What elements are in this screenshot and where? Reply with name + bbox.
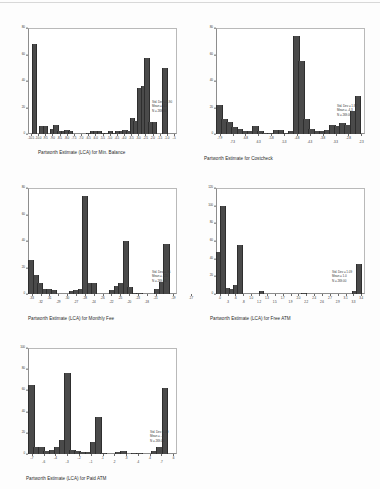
x-tick-label: 1.7	[281, 297, 285, 300]
x-tick-label: -6.5	[86, 137, 91, 140]
y-axis-monthly-fee: 020406080	[12, 188, 28, 306]
x-tick-mark	[95, 134, 96, 136]
x-tick-label: -1.5	[157, 137, 162, 140]
x-tick-mark	[160, 134, 161, 136]
x-tick-mark	[336, 134, 337, 136]
histogram-bar	[64, 373, 71, 454]
y-tick-label: 40	[22, 410, 25, 413]
y-axis-free-atm: 020406080100120	[200, 188, 216, 306]
x-tick-mark	[88, 134, 89, 136]
x-tick-label: .3	[226, 301, 228, 304]
x-tick-label: -10.5	[28, 137, 34, 140]
x-tick-mark	[41, 294, 42, 296]
x-tick-mark	[235, 294, 236, 296]
y-tick-label: 100	[208, 204, 213, 207]
x-tick-label: -2.8	[346, 137, 351, 140]
x-tick-label: -18	[145, 301, 149, 304]
x-tick-mark	[283, 294, 284, 296]
x-tick-mark	[60, 134, 61, 136]
x-tick-label: -.1	[89, 461, 92, 464]
x-tick-label: -8.5	[57, 137, 62, 140]
x-tick-label: -4.8	[295, 137, 300, 140]
x-axis-monthly-fee: -33-31-30-28-26-25-23-21-19-17-32-29-27-…	[28, 294, 177, 306]
x-tick-mark	[126, 454, 127, 456]
x-tick-mark	[330, 294, 331, 296]
y-tick-label: 20	[210, 275, 213, 278]
histogram-bar	[95, 417, 102, 454]
x-tick-label: -1.0	[164, 137, 169, 140]
x-tick-mark	[55, 454, 56, 456]
x-tick-label: .1	[101, 457, 103, 460]
y-tick-label: 60	[22, 53, 25, 56]
chart-panel-min-balance: 020406080 -10.5-10.0-9.5-9.0-8.5-8.0-7.5…	[12, 28, 177, 158]
bar-series-min-balance	[28, 28, 177, 134]
x-tick-mark	[173, 454, 174, 456]
y-tick-label: 40	[210, 79, 213, 82]
chart-panel-monthly-fee: 020406080 -33-31-30-28-26-25-23-21-19-17…	[12, 188, 177, 318]
stats-box-min-balance: Std. Dev = 3.90 Mean = -4.4 N = 269.00	[152, 100, 172, 113]
x-tick-mark	[124, 134, 125, 136]
x-tick-mark	[131, 134, 132, 136]
x-tick-mark	[85, 294, 86, 296]
x-tick-mark	[361, 294, 362, 296]
x-tick-label: .6	[234, 297, 236, 300]
x-tick-mark	[129, 294, 130, 296]
x-tick-mark	[31, 134, 32, 136]
x-tick-label: -29	[56, 301, 60, 304]
x-tick-label: 2.9	[336, 301, 340, 304]
x-tick-label: -20	[127, 301, 131, 304]
x-tick-label: -.3	[66, 461, 69, 464]
x-tick-mark	[111, 294, 112, 296]
x-tick-label: .8	[242, 301, 244, 304]
x-tick-label: -9.0	[50, 137, 55, 140]
x-tick-label: 2.0	[296, 297, 300, 300]
stat-n: N = 269.00	[150, 439, 168, 443]
x-tick-label: .7	[160, 461, 162, 464]
x-tick-label: 2.6	[320, 301, 324, 304]
x-tick-label: -3.8	[320, 137, 325, 140]
x-tick-mark	[45, 134, 46, 136]
stats-box-costcheck: Std. Dev = 1.87 Mean = -4.3 N = 269.00	[337, 104, 357, 117]
x-tick-label: -2.0	[150, 137, 155, 140]
x-tick-mark	[258, 134, 259, 136]
x-tick-label: -32	[39, 301, 43, 304]
x-tick-mark	[161, 454, 162, 456]
x-tick-label: -4.0	[122, 137, 127, 140]
plot-area-free-atm: 020406080100120 .0.61.01.31.72.02.42.73.…	[200, 188, 365, 306]
x-tick-mark	[103, 294, 104, 296]
x-tick-label: 3.1	[344, 297, 348, 300]
x-tick-label: -10.0	[35, 137, 41, 140]
y-tick-label: 0	[211, 132, 213, 135]
y-tick-label: 80	[210, 222, 213, 225]
x-tick-label: .6	[172, 457, 174, 460]
x-tick-label: -27	[74, 301, 78, 304]
histogram-bar	[91, 283, 97, 294]
y-tick-label: 80	[22, 368, 25, 371]
x-tick-label: -5.0	[107, 137, 112, 140]
x-tick-mark	[191, 294, 192, 296]
x-tick-mark	[298, 294, 299, 296]
x-tick-label: -.4	[54, 457, 57, 460]
x-tick-label: -31	[47, 297, 51, 300]
histogram-bar	[28, 385, 35, 454]
x-tick-label: -.5	[172, 137, 175, 140]
x-tick-mark	[147, 294, 148, 296]
x-tick-mark	[32, 294, 33, 296]
x-tick-mark	[94, 294, 95, 296]
x-tick-label: 1.3	[265, 297, 269, 300]
x-tick-label: -7.9	[217, 137, 222, 140]
x-tick-mark	[346, 294, 347, 296]
y-axis-costcheck: 020406080	[200, 28, 216, 146]
stat-n: N = 269.00	[152, 279, 170, 283]
x-tick-mark	[91, 454, 92, 456]
x-tick-mark	[138, 294, 139, 296]
x-tick-label: 1.0	[249, 297, 253, 300]
y-tick-label: 80	[22, 26, 25, 29]
bar-series-costcheck	[216, 28, 365, 134]
histogram-bar	[123, 241, 129, 294]
y-axis-paid-atm: 020406080100	[12, 348, 28, 466]
y-tick-label: 0	[23, 292, 25, 295]
histogram-bar	[237, 245, 243, 294]
x-tick-mark	[173, 294, 174, 296]
x-tick-mark	[58, 294, 59, 296]
